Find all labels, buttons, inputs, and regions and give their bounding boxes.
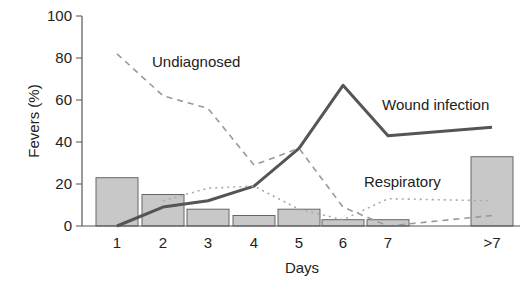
bar bbox=[278, 209, 320, 226]
y-tick-label: 80 bbox=[55, 49, 72, 66]
x-axis-label: Days bbox=[285, 259, 319, 276]
x-tick-label: 1 bbox=[113, 234, 121, 251]
x-tick-label: 2 bbox=[159, 234, 167, 251]
fevers-chart: 020406080100 1234567>7 Fevers (%) Days U… bbox=[0, 0, 524, 290]
x-tick-label: 7 bbox=[384, 234, 392, 251]
annotation-wound-infection: Wound infection bbox=[382, 96, 489, 113]
y-tick-label: 40 bbox=[55, 133, 72, 150]
y-tick-label: 60 bbox=[55, 91, 72, 108]
annotation-respiratory: Respiratory bbox=[364, 173, 441, 190]
bar bbox=[187, 209, 229, 226]
y-tick-label: 100 bbox=[47, 7, 72, 24]
x-tick-label: 6 bbox=[339, 234, 347, 251]
x-tick-label: >7 bbox=[483, 234, 500, 251]
y-ticks: 020406080100 bbox=[47, 7, 82, 234]
bar bbox=[233, 216, 275, 227]
x-tick-label: 4 bbox=[250, 234, 258, 251]
y-tick-label: 0 bbox=[64, 217, 72, 234]
annotation-undiagnosed: Undiagnosed bbox=[152, 53, 240, 70]
x-tick-label: 3 bbox=[204, 234, 212, 251]
bars-group bbox=[96, 157, 513, 226]
bar bbox=[142, 195, 184, 227]
bar bbox=[322, 220, 364, 226]
x-tick-label: 5 bbox=[295, 234, 303, 251]
y-tick-label: 20 bbox=[55, 175, 72, 192]
y-axis-label: Fevers (%) bbox=[25, 84, 42, 157]
x-ticks: 1234567>7 bbox=[113, 234, 501, 251]
